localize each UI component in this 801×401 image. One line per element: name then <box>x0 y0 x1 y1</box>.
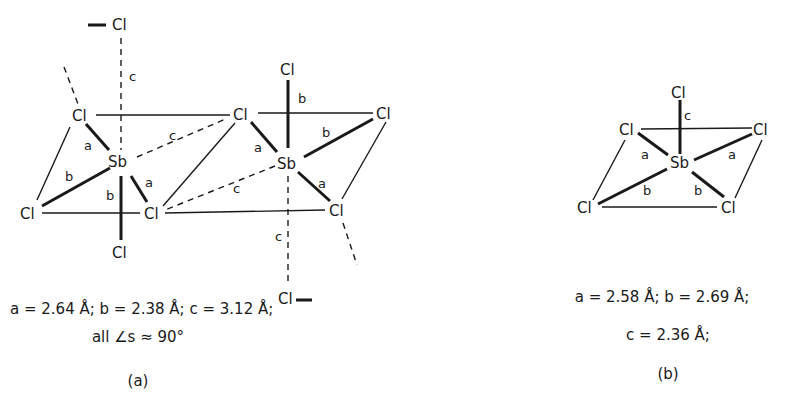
panel-b-label: (b) <box>657 365 678 383</box>
atom-sb: Sb <box>670 154 689 172</box>
atom-cl-right-top: Cl <box>280 61 295 79</box>
bond-label-c-top: c <box>129 69 136 84</box>
bond-b-left-bl <box>42 168 110 206</box>
bond-c-right-diag <box>165 166 275 210</box>
edge-cll-clbl <box>593 140 625 200</box>
edge-clr-clbr <box>735 140 762 198</box>
panel-a-label: (a) <box>128 372 149 390</box>
edge-cltl-clbl <box>37 127 70 200</box>
bond-a-right <box>694 134 752 160</box>
panel-a-angles: all ∠s ≈ 90° <box>92 328 184 346</box>
panel-b-bond-lengths-ab: a = 2.58 Å; b = 2.69 Å; <box>575 288 750 306</box>
atom-sb-left: Sb <box>108 153 127 171</box>
atom-cl-right-bottom: Cl <box>278 290 293 308</box>
atom-cl-bottom-right: Cl <box>721 199 736 217</box>
bond-label-c-left-diag: c <box>169 128 176 143</box>
atom-cl-bottom: Cl <box>112 244 127 262</box>
atom-cl-bottom-center: Cl <box>144 205 159 223</box>
bond-label-a-right-br: a <box>318 176 326 191</box>
bond-ext-top-left <box>64 67 78 104</box>
bond-label-b-right: b <box>694 183 702 198</box>
bond-label-b-left: b <box>643 183 651 198</box>
bond-label-b-left-bl: b <box>65 169 73 184</box>
atom-cl-shared-top: Cl <box>233 106 248 124</box>
atom-cl-top: Cl <box>112 16 127 34</box>
bond-label-a-left-top: a <box>84 138 92 153</box>
atom-cl-top-left: Cl <box>72 107 87 125</box>
atom-sb-right: Sb <box>277 155 296 173</box>
bond-label-a-left-bc: a <box>145 175 153 190</box>
bond-label-c-right-bottom: c <box>275 229 282 244</box>
bond-label-a-left: a <box>641 147 649 162</box>
bond-b-left <box>598 169 667 204</box>
bond-ext-bottom-right <box>343 223 357 265</box>
bond-label-c-top: c <box>684 108 691 123</box>
atom-cl-right-upper-right: Cl <box>376 105 391 123</box>
edge-clbc-clrlr <box>165 210 325 213</box>
bond-label-b-right-tr: b <box>322 125 330 140</box>
atom-cl-left: Cl <box>619 121 634 139</box>
bond-label-a-right-tl: a <box>254 140 262 155</box>
bond-c-left-shared <box>137 118 228 157</box>
atom-cl-bottom-left: Cl <box>20 205 35 223</box>
bond-b-right-tr <box>304 119 373 157</box>
atom-cl-right: Cl <box>753 121 768 139</box>
bond-label-c-right-diag: c <box>233 181 240 196</box>
atom-cl-bottom-left: Cl <box>577 199 592 217</box>
bond-label-b-left-down: b <box>106 188 114 203</box>
atom-cl-right-lower-right: Cl <box>329 202 344 220</box>
bond-label-b-right-top: b <box>298 91 306 106</box>
atom-cl-top: Cl <box>671 84 686 102</box>
panel-b-bond-length-c: c = 2.36 Å; <box>626 326 710 344</box>
panel-a-bond-lengths: a = 2.64 Å; b = 2.38 Å; c = 3.12 Å; <box>10 300 273 318</box>
bond-label-a-right: a <box>728 147 736 162</box>
panel-a-structure: Cl Cl Sb Cl Cl Cl Cl Cl Sb Cl Cl Cl c a … <box>20 16 391 308</box>
panel-b-structure: Cl Cl Cl Sb Cl Cl c a a b b <box>577 84 768 217</box>
edge-cll-clr <box>641 128 752 129</box>
